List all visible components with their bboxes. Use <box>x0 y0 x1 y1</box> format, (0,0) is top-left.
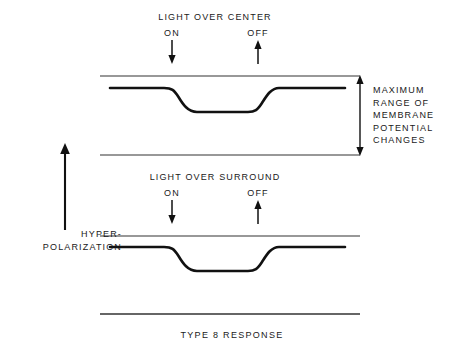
light-over-surround-title: LIGHT OVER SURROUND <box>105 172 325 183</box>
light-over-center-title: LIGHT OVER CENTER <box>105 12 325 23</box>
light-over-surround-off-label: OFF <box>218 188 298 199</box>
hyperpolarization-label: HYPER- POLARIZATION <box>8 228 122 253</box>
type-8-response-figure: LIGHT OVER CENTER ON OFF LIGHT OVER SURR… <box>0 0 454 352</box>
surround-response-trace <box>110 247 345 271</box>
light-over-surround-on-label: ON <box>132 188 212 199</box>
surround-on-arrow-head <box>168 215 175 224</box>
light-over-center-on-label: ON <box>132 28 212 39</box>
hyperpolarization-arrow-head <box>60 143 70 154</box>
center-response-trace <box>110 88 345 112</box>
maximum-range-label: MAXIMUM RANGE OF MEMBRANE POTENTIAL CHAN… <box>373 84 451 147</box>
center-off-arrow-head <box>254 40 261 49</box>
light-over-center-off-label: OFF <box>218 28 298 39</box>
surround-off-arrow-head <box>254 200 261 209</box>
figure-caption: TYPE 8 RESPONSE <box>107 330 357 341</box>
center-on-arrow-head <box>168 55 175 64</box>
